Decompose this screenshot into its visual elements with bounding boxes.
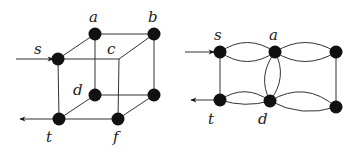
node-e (148, 89, 161, 102)
node-d (264, 95, 277, 108)
node-right-bottom (330, 101, 343, 114)
edge-a-r1-2 (275, 52, 336, 62)
node-a (89, 28, 102, 41)
edge-d-r2-2 (270, 101, 336, 111)
label-s: s (34, 40, 42, 58)
edge-t-d-1 (220, 92, 270, 101)
label-t: t (46, 128, 53, 146)
label-c: c (107, 40, 116, 58)
edge-s-a (58, 34, 95, 59)
label-d: d (258, 110, 268, 128)
node-f (112, 113, 125, 126)
label-f: f (112, 128, 121, 146)
node-t (53, 113, 66, 126)
node-right-top (330, 46, 343, 59)
node-a (269, 46, 282, 59)
cube-graph: a b s c d t f (16, 8, 161, 146)
label-a: a (89, 8, 98, 26)
edge-a-r1-1 (275, 43, 336, 53)
node-t (214, 94, 227, 107)
edge-d-r2-1 (270, 92, 336, 107)
edge-t-d-2 (220, 100, 270, 104)
edge-s-t (58, 59, 59, 119)
node-d (89, 89, 102, 102)
edge-a-d-1 (265, 52, 275, 101)
multigraph: s a t d (185, 26, 343, 128)
edge-s-a-2 (220, 52, 275, 62)
label-b: b (148, 8, 158, 26)
label-d: d (73, 81, 83, 99)
node-s (52, 53, 65, 66)
edge-s-a-1 (220, 43, 275, 53)
figure: a b s c d t f s a t d (0, 0, 361, 155)
label-a: a (269, 26, 278, 44)
label-s: s (214, 26, 222, 44)
node-b (148, 28, 161, 41)
label-t: t (208, 110, 215, 128)
node-s (214, 46, 227, 59)
edge-a-d-2 (270, 52, 280, 101)
edge-c-f (118, 59, 119, 119)
